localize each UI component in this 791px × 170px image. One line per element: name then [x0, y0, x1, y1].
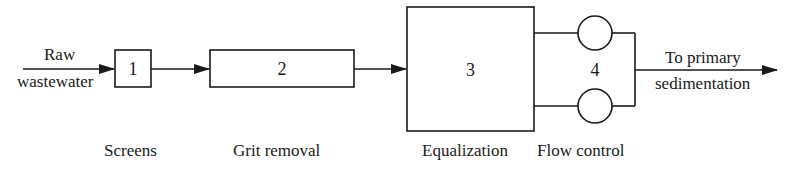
input-label-line1: Raw — [44, 46, 75, 63]
output-label-line1: To primary — [665, 49, 741, 66]
stage-4-number: 4 — [580, 61, 610, 79]
stage-1-name: Screens — [104, 142, 157, 159]
stage-3-name: Equalization — [422, 142, 508, 159]
flow-control-top-circle — [578, 16, 612, 50]
flow-control-bottom-circle — [578, 89, 612, 123]
stage-2-number: 2 — [210, 60, 354, 78]
stage-3-number: 3 — [407, 61, 534, 79]
input-label-line2: wastewater — [17, 73, 93, 90]
output-label-line2: sedimentation — [655, 75, 750, 92]
stage-1-number: 1 — [115, 60, 151, 78]
stage-2-name: Grit removal — [233, 142, 320, 159]
stage-4-name: Flow control — [537, 142, 624, 159]
